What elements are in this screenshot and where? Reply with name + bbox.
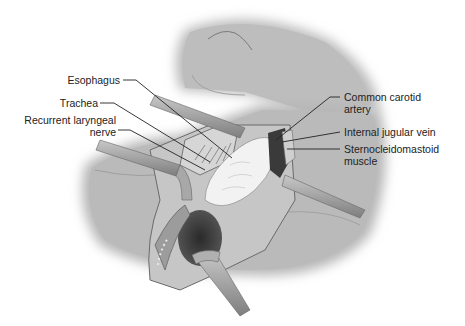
label-rln-line2: nerve — [4, 126, 116, 138]
label-sternocleidomastoid-muscle: Sternocleidomastoid muscle — [344, 143, 439, 167]
label-cca-line1: Common carotid — [344, 91, 421, 103]
label-scm-line1: Sternocleidomastoid — [344, 143, 439, 155]
label-ijv-text: Internal jugular vein — [344, 126, 436, 138]
label-esophagus: Esophagus — [54, 74, 120, 86]
label-internal-jugular-vein: Internal jugular vein — [344, 126, 436, 138]
label-trachea-text: Trachea — [60, 97, 98, 109]
label-trachea: Trachea — [40, 97, 98, 109]
label-scm-line2: muscle — [344, 155, 439, 167]
label-esophagus-text: Esophagus — [67, 74, 120, 86]
label-cca-line2: artery — [344, 103, 421, 115]
label-common-carotid-artery: Common carotid artery — [344, 91, 421, 115]
label-recurrent-laryngeal-nerve: Recurrent laryngeal nerve — [4, 114, 116, 138]
label-rln-line1: Recurrent laryngeal — [4, 114, 116, 126]
